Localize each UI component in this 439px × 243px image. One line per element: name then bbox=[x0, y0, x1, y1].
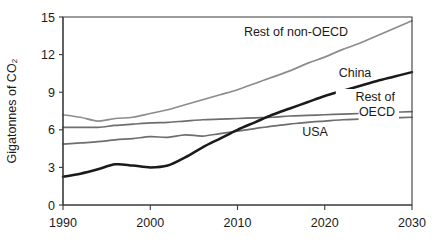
annotation-rest-of-non-oecd: Rest of non-OECD bbox=[244, 25, 348, 39]
y-tick-label-9: 9 bbox=[48, 86, 55, 100]
emissions-line-chart: 0369121519902000201020202030 Rest of non… bbox=[0, 0, 439, 243]
annotation-usa: USA bbox=[302, 125, 328, 139]
x-tick-label-2010: 2010 bbox=[224, 216, 252, 230]
y-axis-title: Gigatonnes of CO₂ bbox=[5, 58, 19, 163]
annotation-rest-of-oecd-line2: OECD bbox=[359, 105, 395, 119]
x-tick-label-1990: 1990 bbox=[49, 216, 77, 230]
x-tick-label-2020: 2020 bbox=[311, 216, 339, 230]
y-tick-label-12: 12 bbox=[41, 48, 55, 62]
annotation-rest-of-oecd-line1: Rest of bbox=[355, 90, 395, 104]
y-tick-label-15: 15 bbox=[41, 11, 55, 25]
y-tick-label-0: 0 bbox=[48, 199, 55, 213]
y-axis-title-group: Gigatonnes of CO₂ bbox=[5, 58, 19, 163]
chart-figure: 0369121519902000201020202030 Rest of non… bbox=[0, 0, 439, 243]
y-tick-label-6: 6 bbox=[48, 123, 55, 137]
annotation-china: China bbox=[339, 66, 372, 80]
x-tick-label-2000: 2000 bbox=[136, 216, 164, 230]
x-tick-label-2030: 2030 bbox=[398, 216, 426, 230]
y-tick-label-3: 3 bbox=[48, 161, 55, 175]
